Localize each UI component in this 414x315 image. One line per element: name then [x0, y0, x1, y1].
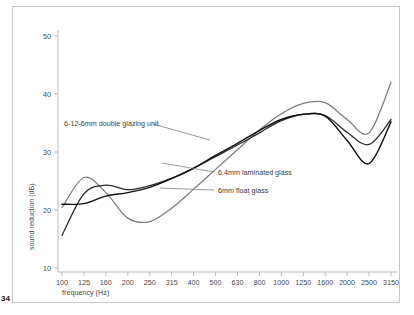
y-tick-label: 30 — [43, 148, 51, 157]
x-tick-label: 1000 — [273, 278, 289, 287]
y-tick-label: 40 — [43, 90, 51, 99]
axes-group — [54, 30, 397, 276]
series-line — [62, 82, 391, 222]
annot-float-label: 6mm float glass — [218, 186, 269, 195]
x-tick-label: 315 — [166, 278, 178, 287]
x-axis-title: frequency (Hz) — [62, 288, 109, 297]
x-tick-label: 125 — [78, 278, 90, 287]
y-axis-title: sound reduction (dB) — [27, 183, 36, 250]
x-tick-label: 200 — [122, 278, 134, 287]
figure-page: 6-12-6mm double glazing unit6.4mm lamina… — [0, 0, 414, 315]
annot-double-glazing-label: 6-12-6mm double glazing unit — [64, 119, 159, 128]
annot-float-leader — [160, 188, 214, 190]
annot-laminated-label: 6.4mm laminated glass — [218, 168, 292, 177]
x-tick-label: 250 — [144, 278, 156, 287]
y-tick-label: 50 — [43, 32, 51, 41]
annot-double-glazing-leader — [153, 124, 210, 140]
x-tick-label: 630 — [231, 278, 243, 287]
x-tick-label: 800 — [253, 278, 265, 287]
y-tick-label: 20 — [43, 206, 51, 215]
x-tick-label: 3150 — [383, 278, 399, 287]
x-tick-label: 2500 — [361, 278, 377, 287]
x-tick-label: 400 — [188, 278, 200, 287]
page-folio-number: 34 — [1, 294, 10, 303]
y-tick-label: 10 — [43, 264, 51, 273]
x-tick-label: 2000 — [339, 278, 355, 287]
x-tick-label: 500 — [210, 278, 222, 287]
axis-labels-group: 1020304050100125160200250315400500630800… — [27, 32, 399, 297]
series-group — [62, 82, 391, 235]
x-tick-label: 1600 — [317, 278, 333, 287]
sound-reduction-chart: 6-12-6mm double glazing unit6.4mm lamina… — [0, 0, 414, 315]
x-tick-label: 100 — [56, 278, 68, 287]
x-tick-label: 1250 — [295, 278, 311, 287]
x-tick-label: 160 — [100, 278, 112, 287]
